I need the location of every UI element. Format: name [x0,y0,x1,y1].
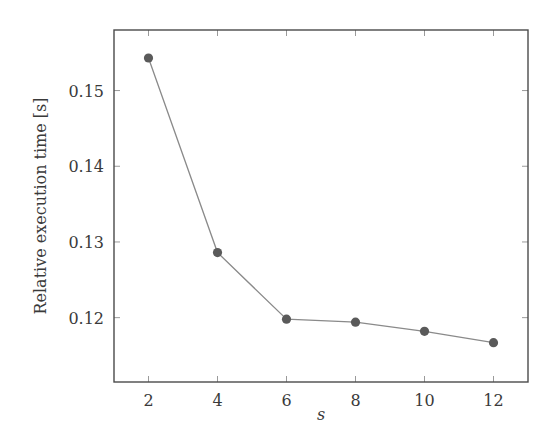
y-tick-label: 0.13 [68,233,104,252]
series-line [149,58,494,343]
plot-frame [114,30,528,382]
data-point [144,53,153,62]
x-axis-label: s [317,405,325,424]
y-tick-label: 0.15 [68,82,104,101]
data-point [213,248,222,257]
tick-marks [114,30,528,382]
y-axis-label: Relative execution time [s] [31,97,50,314]
x-tick-label: 4 [212,391,222,410]
data-point [489,338,498,347]
x-tick-label: 6 [281,391,291,410]
y-tick-label: 0.12 [68,309,104,328]
x-tick-label: 10 [414,391,434,410]
y-tick-label: 0.14 [68,157,104,176]
x-tick-label: 8 [350,391,360,410]
x-tick-label: 2 [143,391,153,410]
data-markers [144,53,498,347]
data-point [420,327,429,336]
data-point [282,315,291,324]
x-tick-label: 12 [483,391,503,410]
tick-labels: 246810120.120.130.140.15 [68,82,503,410]
line-chart: 246810120.120.130.140.15 s Relative exec… [0,0,554,443]
data-point [351,318,360,327]
